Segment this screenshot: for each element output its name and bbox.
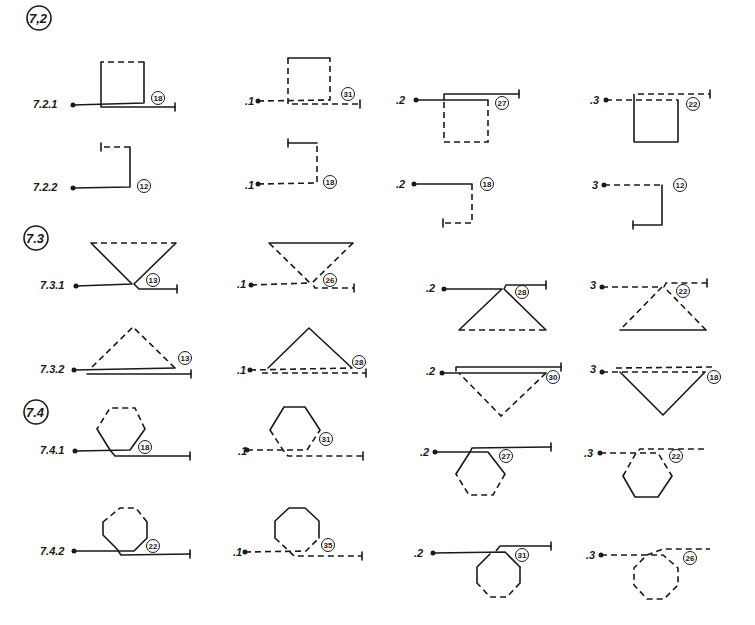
svg-text:18: 18 [710,373,719,382]
badge: 26 [684,552,697,565]
figure-7-2-2-3 [602,183,663,230]
svg-text:22: 22 [679,287,688,296]
svg-text:22: 22 [689,100,698,109]
row-label: 3 [590,363,596,375]
svg-text:26: 26 [326,276,335,285]
badge: 22 [677,285,690,298]
svg-text:13: 13 [181,354,190,363]
svg-text:26: 26 [686,554,695,563]
path-diagram: .s { stroke: #1a1a1a; stroke-width: 1.6;… [0,0,755,625]
svg-text:28: 28 [355,358,364,367]
figure-7-4-1-1 [245,407,364,460]
row-label: .2 [396,178,405,190]
figure-7-2-1-1 [256,58,361,108]
figure-7-3-1-1 [249,243,355,292]
svg-text:27: 27 [502,452,511,461]
figure-7-3-2-1 [248,328,367,377]
svg-text:31: 31 [344,90,353,99]
figure-7-4-2-2 [431,542,552,597]
row-label: 7.4.2 [40,545,64,557]
svg-text:12: 12 [676,181,685,190]
badge: 31 [320,433,333,446]
row-label: .1 [233,546,242,558]
figure-7-3-2-3 [600,367,714,415]
figure-7-2-2 [71,143,131,191]
figure-7-4-1-2 [433,443,552,495]
row-label: .3 [584,447,593,459]
svg-text:31: 31 [322,435,331,444]
figure-7-2-2-1 [256,139,318,187]
badge: 35 [322,539,335,552]
section-marker-7-4: 7.4 [24,400,48,424]
figure-7-4-2 [72,508,191,558]
svg-text:27: 27 [498,99,507,108]
badge: 18 [481,178,494,191]
badge: 22 [147,540,160,553]
svg-text:18: 18 [326,178,335,187]
row-label: 7.2.2 [33,181,57,193]
figure-7-2-2-2 [412,182,473,228]
badge: 27 [496,97,509,110]
badge: 12 [674,179,687,192]
svg-text:7.4: 7.4 [26,405,45,420]
figure-7-3-1 [74,243,178,293]
row-label: 3 [590,279,596,291]
svg-text:12: 12 [140,182,149,191]
row-label: .1 [237,278,246,290]
row-label: 7.2.1 [33,98,57,110]
section-marker-7-2: 7,2 [27,6,51,30]
badge: 26 [324,274,337,287]
figure-7-3-2-2 [440,363,562,416]
row-label: .3 [586,549,595,561]
badge: 13 [147,274,160,287]
svg-text:31: 31 [518,551,527,560]
badge: 27 [500,450,513,463]
row-label: .1 [237,364,246,376]
badge: 31 [516,549,529,562]
figure-7-3-1-3 [600,279,708,330]
svg-text:28: 28 [518,288,527,297]
row-label: 7.3.1 [40,279,64,291]
badge: 28 [353,356,366,369]
row-label: .1 [245,179,254,191]
badge: 18 [708,371,721,384]
svg-text:7.3: 7.3 [26,231,45,246]
row-label: 7.3.2 [40,363,64,375]
badge: 18 [139,441,152,454]
badge: 18 [324,176,337,189]
svg-text:7,2: 7,2 [29,11,48,26]
badge: 30 [547,371,560,384]
section-marker-7-3: 7.3 [24,226,48,250]
svg-text:13: 13 [149,276,158,285]
row-label: .2 [396,94,405,106]
badge: 12 [138,180,151,193]
row-label: .2 [420,446,429,458]
row-label: .3 [590,94,599,106]
badge: 18 [152,92,165,105]
row-label: .2 [414,547,423,559]
row-labels: 7.2.1 .1 .2 .3 7.2.2 .1 .2 3 7.3.1 .1 .2… [33,94,599,561]
badge: 22 [670,450,683,463]
row-label: 3 [592,179,598,191]
svg-text:18: 18 [483,180,492,189]
row-label: .1 [245,95,254,107]
svg-text:22: 22 [149,542,158,551]
row-label: .2 [426,365,435,377]
badge: 22 [687,98,700,111]
figure-7-3-2 [72,327,192,378]
figure-7-4-2-1 [243,508,363,560]
svg-text:18: 18 [141,443,150,452]
svg-text:30: 30 [549,373,558,382]
badge: 13 [179,352,192,365]
badge: 31 [342,88,355,101]
row-label: 7.4.1 [40,444,64,456]
figure-7-3-1-2 [442,281,547,330]
figure-7-4-1 [73,408,191,460]
row-label: .2 [426,282,435,294]
badge: 28 [516,286,529,299]
svg-text:22: 22 [672,452,681,461]
svg-text:35: 35 [324,541,333,550]
svg-text:18: 18 [154,94,163,103]
figure-7-4-1-3 [598,449,705,497]
